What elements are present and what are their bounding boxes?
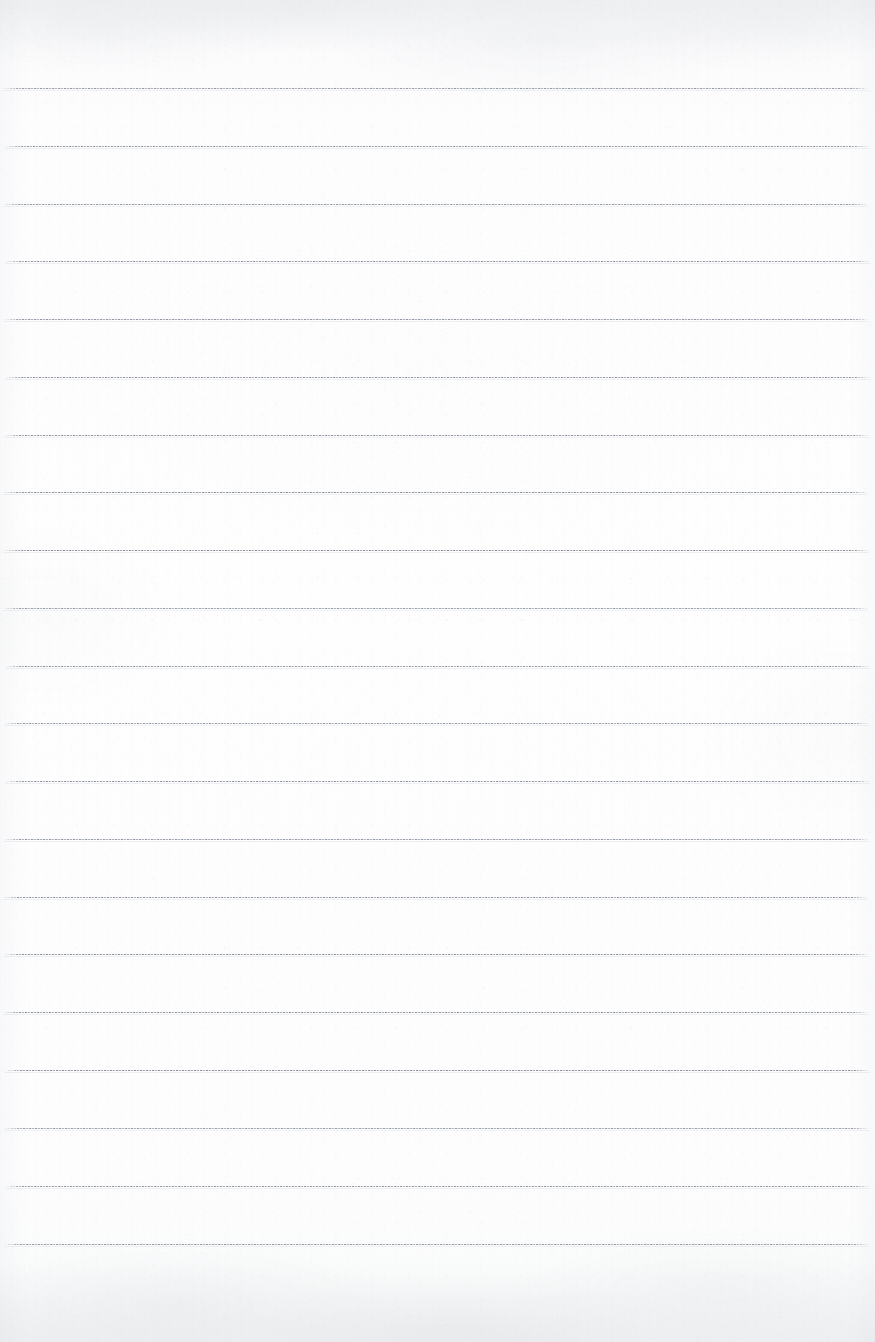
ruled-line xyxy=(4,1244,869,1246)
ruled-line xyxy=(4,146,869,148)
ruled-line xyxy=(3,1012,868,1014)
ruled-lines-layer xyxy=(0,0,875,1342)
ruled-line xyxy=(3,608,868,610)
ruled-line xyxy=(4,435,869,437)
ruled-line xyxy=(4,839,869,841)
ruled-line xyxy=(5,261,870,263)
ruled-line xyxy=(5,1070,870,1072)
ruled-line xyxy=(4,954,869,956)
ruled-line xyxy=(3,88,868,90)
ruled-line xyxy=(5,377,870,379)
ruled-line xyxy=(3,204,868,206)
ruled-line xyxy=(4,723,869,725)
ruled-line xyxy=(5,1186,870,1188)
ruled-line xyxy=(5,666,870,668)
ruled-line xyxy=(3,492,868,494)
ruled-line xyxy=(5,781,870,783)
ruled-line xyxy=(4,1128,869,1130)
ruled-line xyxy=(3,897,868,899)
ruled-line xyxy=(4,550,869,552)
ruled-line xyxy=(4,319,869,321)
scanned-page xyxy=(0,0,875,1342)
